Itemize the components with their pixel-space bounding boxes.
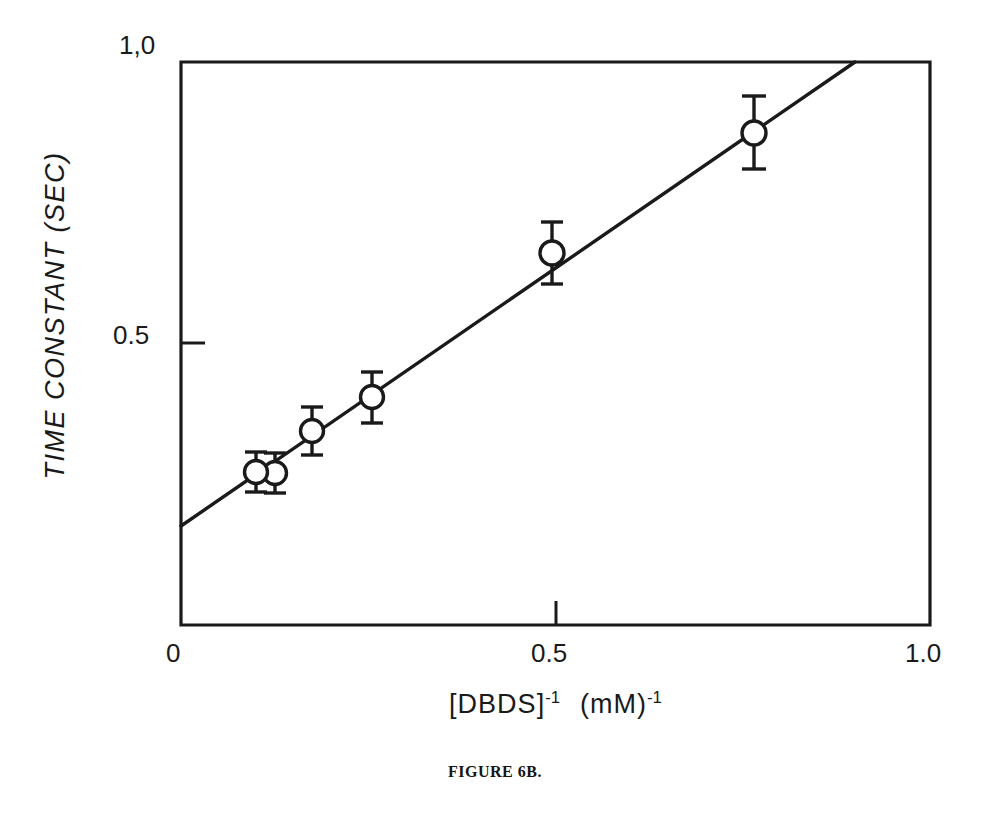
data-series	[245, 96, 767, 493]
y-axis-title: TIME CONSTANT (SEC)	[40, 106, 71, 526]
x-tick-label-0.5: 0.5	[531, 638, 567, 669]
axes-border	[181, 62, 930, 625]
x-axis-title: [DBDS]-1(mM)-1	[181, 688, 930, 720]
figure-container: TIME CONSTANT (SEC) [DBDS]-1(mM)-1 1,0 0…	[0, 0, 990, 826]
data-point	[245, 452, 268, 492]
y-tick-label-mid: 0.5	[113, 320, 149, 351]
data-point	[742, 96, 766, 169]
x-tick-label-1.0: 1.0	[905, 638, 941, 669]
x-axis-unit: mM	[590, 689, 637, 719]
figure-caption: FIGURE 6B.	[0, 763, 990, 781]
x-axis-exponent-2: -1	[647, 688, 662, 707]
x-axis-bracket-close: ]	[537, 689, 546, 719]
data-point	[361, 372, 384, 423]
x-axis-exponent-1: -1	[545, 688, 560, 707]
x-axis-unit-close: )	[637, 689, 647, 719]
data-point	[301, 407, 324, 455]
y-tick-label-top: 1,0	[119, 30, 155, 61]
x-axis-unit-open: (	[580, 689, 590, 719]
x-axis-bracket-open: [	[449, 689, 458, 719]
x-tick-label-0: 0	[166, 638, 180, 669]
plot-frame	[181, 62, 930, 625]
x-axis-species: DBDS	[458, 689, 537, 719]
